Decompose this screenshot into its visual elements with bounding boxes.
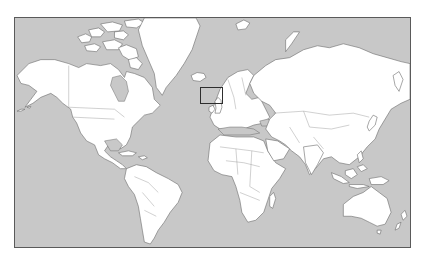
caribbean-islands — [118, 151, 136, 156]
highlight-label: United Kingdom and Ireland highlighted — [201, 88, 202, 89]
australia — [343, 187, 391, 227]
arctic-archipelago — [78, 19, 145, 70]
aleutian-islands — [17, 106, 31, 111]
highlight-region-box: United Kingdom and Ireland highlighted — [200, 87, 223, 104]
world-map: World map — [14, 17, 411, 248]
new-zealand — [395, 210, 407, 230]
tasmania — [377, 230, 381, 234]
mediterranean-sea — [218, 127, 260, 135]
svalbard — [236, 20, 250, 30]
iceland — [191, 73, 206, 82]
world-map-graphic — [15, 18, 410, 247]
south-america — [124, 165, 182, 244]
madagascar — [270, 192, 276, 208]
novaya-zemlya — [286, 32, 300, 52]
north-america — [17, 60, 160, 169]
